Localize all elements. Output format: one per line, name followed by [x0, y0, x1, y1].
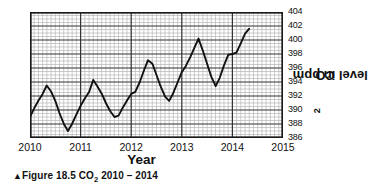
- y-axis-title-tail: level in ppm: [293, 69, 368, 84]
- plot-area: [30, 12, 283, 138]
- chart-svg: [30, 12, 283, 138]
- x-axis-title: Year: [0, 152, 283, 167]
- caption-text: Figure 18.5 CO: [22, 170, 94, 181]
- caption-tail: 2010 – 2014: [98, 170, 158, 181]
- figure-caption: ▲Figure 18.5 CO2 2010 – 2014: [13, 170, 158, 184]
- y-axis-title: CO2 level in ppm: [304, 10, 324, 142]
- y-axis-title-sub: 2: [313, 109, 323, 114]
- caption-triangle-icon: ▲: [13, 171, 22, 181]
- y-tick-label: 388: [288, 118, 302, 128]
- y-tick-label: 404: [288, 6, 302, 16]
- y-tick-label: 402: [288, 20, 302, 30]
